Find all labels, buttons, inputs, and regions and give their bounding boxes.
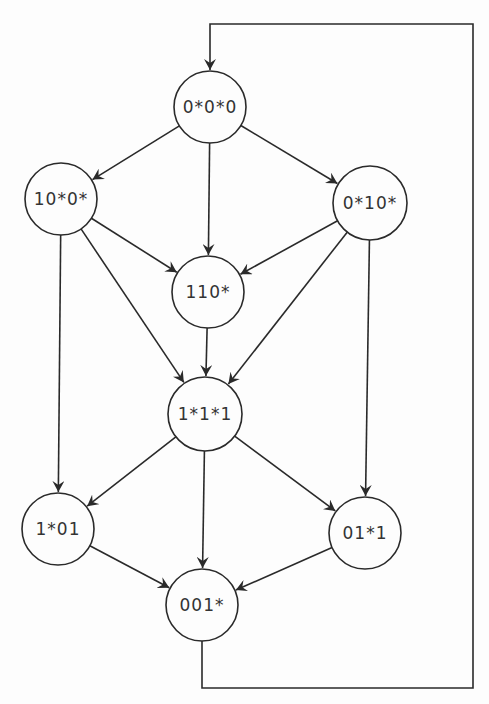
- edge-1*1*1-to-01*1: [235, 436, 336, 511]
- edge-0*0*0-to-110*: [208, 143, 209, 255]
- edge-0*0*0-to-10*0*: [92, 126, 179, 180]
- node-label: 001*: [180, 595, 225, 615]
- node-label: 10*0*: [34, 189, 88, 209]
- edge-0*10*-to-01*1: [366, 240, 370, 496]
- edge-0*0*0-to-0*10*: [241, 126, 338, 184]
- state-node: 001*: [166, 569, 238, 641]
- edges-layer: [58, 24, 473, 688]
- state-node: 0*0*0: [174, 71, 246, 143]
- node-label: 1*1*1: [178, 404, 232, 424]
- state-node: 1*1*1: [168, 377, 242, 451]
- state-node: 01*1: [329, 497, 401, 569]
- edge-0*10*-to-1*1*1: [228, 232, 347, 384]
- node-label: 0*10*: [343, 193, 397, 213]
- edge-110*-to-1*1*1: [206, 328, 207, 376]
- node-label: 1*01: [36, 519, 81, 539]
- state-node: 110*: [172, 256, 244, 328]
- edge-1*01-to-001*: [90, 546, 169, 588]
- edge-10*0*-to-1*01: [58, 235, 60, 492]
- node-label: 01*1: [343, 523, 388, 543]
- edge-1*1*1-to-1*01: [87, 437, 176, 506]
- state-node: 1*01: [22, 493, 94, 565]
- state-node: 10*0*: [25, 163, 97, 235]
- state-diagram: 0*0*010*0*0*10*110*1*1*11*0101*1001*: [0, 0, 489, 704]
- edge-01*1-to-001*: [236, 548, 332, 591]
- state-node: 0*10*: [333, 166, 407, 240]
- edge-0*10*-to-110*: [240, 221, 337, 274]
- edge-1*1*1-to-001*: [203, 451, 205, 568]
- nodes-layer: 0*0*010*0*0*10*110*1*1*11*0101*1001*: [22, 71, 407, 641]
- edge-10*0*-to-1*1*1: [81, 229, 184, 383]
- node-label: 110*: [186, 282, 231, 302]
- node-label: 0*0*0: [183, 97, 237, 117]
